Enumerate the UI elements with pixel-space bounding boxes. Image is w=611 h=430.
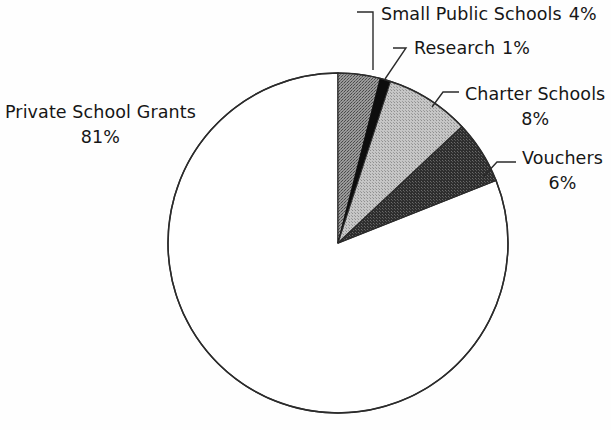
pie-label-vouchers-percent: 6% [522, 171, 603, 196]
pie-label-research-percent: 1% [502, 38, 530, 58]
pie-chart-figure: Small Public Schools4% Research1% Charte… [0, 0, 611, 430]
pie-label-small-public-schools: Small Public Schools4% [381, 2, 597, 27]
pie-label-vouchers: Vouchers 6% [522, 146, 603, 196]
pie-label-charter-schools: Charter Schools 8% [465, 82, 605, 132]
leader-line-small-public-schools [357, 12, 373, 70]
pie-label-research: Research1% [414, 36, 530, 61]
pie-label-private-school-grants-percent: 81% [5, 125, 196, 150]
pie-label-charter-schools-percent: 8% [465, 107, 605, 132]
pie-label-private-school-grants: Private School Grants 81% [5, 100, 196, 150]
pie-label-research-name: Research [414, 38, 495, 58]
pie-label-charter-schools-name: Charter Schools [465, 84, 605, 104]
pie-label-small-public-schools-percent: 4% [569, 4, 597, 24]
pie-chart-canvas [0, 0, 611, 430]
pie-label-private-school-grants-name: Private School Grants [5, 102, 196, 122]
pie-label-small-public-schools-name: Small Public Schools [381, 4, 562, 24]
leader-line-research [385, 48, 406, 79]
pie-label-vouchers-name: Vouchers [522, 148, 603, 168]
